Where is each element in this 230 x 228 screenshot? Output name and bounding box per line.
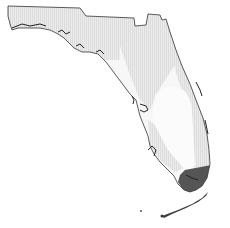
zone-florida-keys — [162, 192, 208, 218]
zone-panhandle-west — [0, 0, 120, 60]
florida-map-svg — [0, 0, 230, 228]
dry-tortugas-dot — [140, 210, 142, 212]
key-west-dot — [161, 215, 164, 218]
florida-map — [0, 0, 230, 228]
